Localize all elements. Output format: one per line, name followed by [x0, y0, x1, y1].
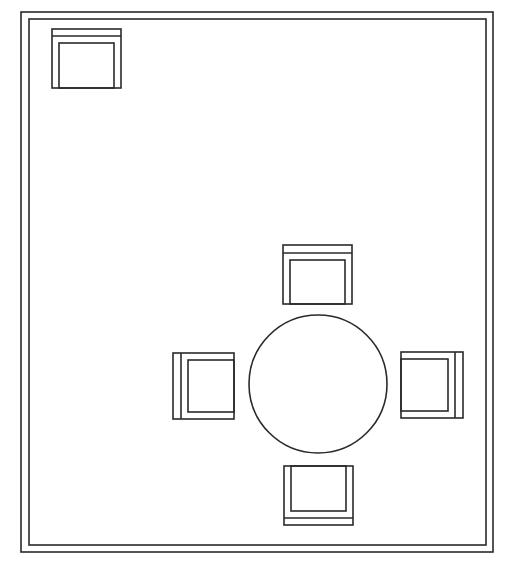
- chair-frame: [401, 352, 463, 418]
- chair-seat: [290, 260, 345, 304]
- outer-wall: [21, 12, 493, 552]
- chair-frame: [173, 353, 234, 419]
- chair-frame: [52, 29, 121, 88]
- chair-frame: [283, 245, 352, 304]
- chair-north: [283, 245, 352, 304]
- armchair-corner: [52, 29, 121, 88]
- chair-south: [284, 466, 353, 525]
- chair-seat: [188, 360, 234, 412]
- chair-west: [173, 353, 234, 419]
- floor-plan: [0, 0, 505, 573]
- chair-seat: [401, 359, 448, 411]
- chair-frame: [284, 466, 353, 525]
- inner-wall: [29, 19, 486, 545]
- chair-seat: [59, 43, 114, 88]
- round-table: [249, 315, 387, 453]
- room-walls: [21, 12, 493, 552]
- chair-seat: [291, 466, 346, 511]
- chair-east: [401, 352, 463, 418]
